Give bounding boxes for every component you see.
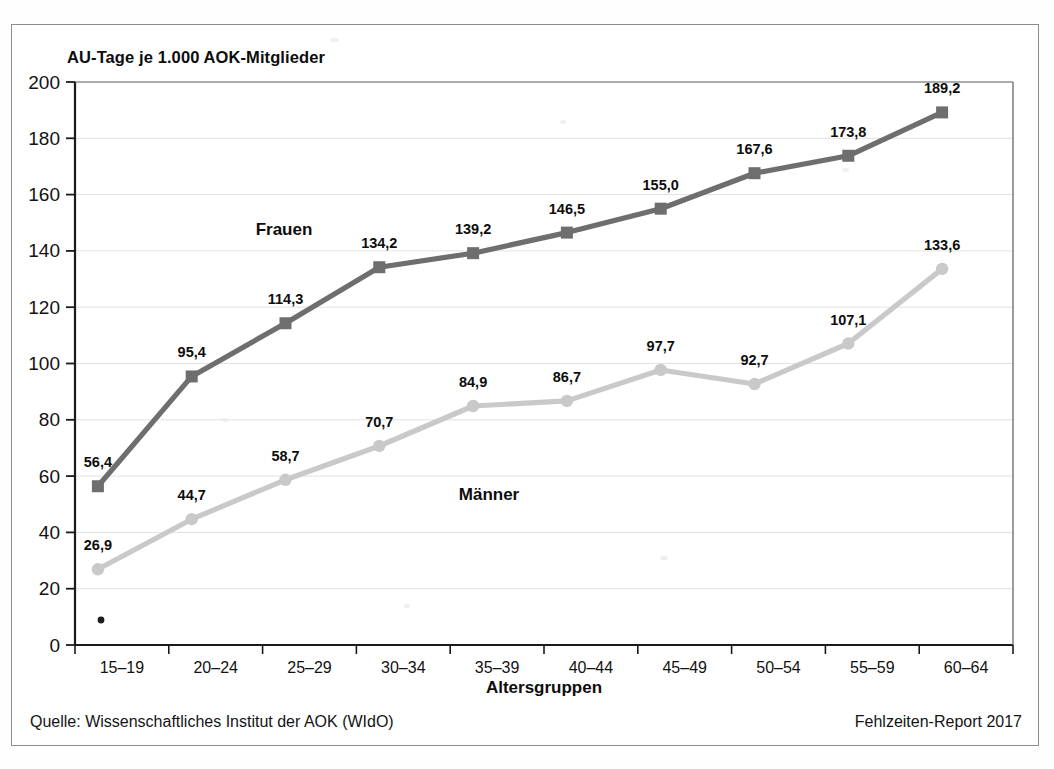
data-point-label: 26,9 xyxy=(84,537,112,553)
series-frauen-group xyxy=(92,106,948,492)
data-point-label: 97,7 xyxy=(647,338,675,354)
data-point-marker xyxy=(92,480,104,492)
scan-speck xyxy=(660,556,668,560)
y-tick-label: 20 xyxy=(39,578,60,599)
data-point-marker xyxy=(561,395,573,407)
x-axis-ticks-group: 15–1920–2425–2930–3435–3940–4445–4950–54… xyxy=(75,645,1013,676)
data-point-marker xyxy=(655,203,667,215)
x-tick-label: 35–39 xyxy=(475,659,520,676)
scan-speck xyxy=(404,604,410,608)
y-tick-label: 200 xyxy=(28,72,60,93)
y-tick-label: 120 xyxy=(28,297,60,318)
y-tick-label: 40 xyxy=(39,522,60,543)
data-point-label: 189,2 xyxy=(924,80,960,96)
data-point-marker xyxy=(186,370,198,382)
series-line-frauen xyxy=(98,112,942,486)
data-point-label: 84,9 xyxy=(459,374,487,390)
data-point-label: 70,7 xyxy=(365,414,393,430)
data-point-marker xyxy=(749,167,761,179)
scan-speck xyxy=(330,38,339,42)
x-tick-label: 60–64 xyxy=(944,659,989,676)
x-tick-label: 30–34 xyxy=(381,659,426,676)
data-point-label: 95,4 xyxy=(178,344,206,360)
data-point-label: 139,2 xyxy=(455,221,491,237)
data-point-marker xyxy=(92,563,104,575)
y-tick-label: 160 xyxy=(28,184,60,205)
series-annotation-maenner: Männer xyxy=(459,485,520,504)
line-chart-plot: 020406080100120140160180200 15–1920–2425… xyxy=(0,0,1054,769)
data-point-label: 86,7 xyxy=(553,369,581,385)
data-point-marker xyxy=(936,263,948,275)
data-point-label: 155,0 xyxy=(643,177,679,193)
y-tick-label: 100 xyxy=(28,353,60,374)
data-point-marker xyxy=(186,513,198,525)
data-point-label: 58,7 xyxy=(271,448,299,464)
data-point-marker xyxy=(280,317,292,329)
data-point-label: 134,2 xyxy=(361,235,397,251)
y-axis-ticks-group: 020406080100120140160180200 xyxy=(28,72,75,656)
data-point-label: 44,7 xyxy=(178,487,206,503)
source-note: Quelle: Wissenschaftliches Institut der … xyxy=(30,713,394,731)
data-point-marker xyxy=(655,364,667,376)
stray-dot-artifact xyxy=(98,617,105,624)
y-tick-label: 80 xyxy=(39,409,60,430)
data-point-marker xyxy=(936,106,948,118)
data-point-label: 133,6 xyxy=(924,237,960,253)
data-point-label: 107,1 xyxy=(830,312,866,328)
data-point-label: 56,4 xyxy=(84,454,112,470)
data-point-label: 114,3 xyxy=(268,291,304,307)
data-point-marker xyxy=(373,261,385,273)
x-tick-label: 50–54 xyxy=(756,659,801,676)
y-tick-label: 180 xyxy=(28,128,60,149)
x-axis-title: Altersgruppen xyxy=(486,678,602,697)
data-point-marker xyxy=(561,227,573,239)
scan-speck xyxy=(842,168,849,172)
data-point-marker xyxy=(279,474,291,486)
x-tick-label: 40–44 xyxy=(569,659,614,676)
data-point-label: 92,7 xyxy=(740,352,768,368)
data-point-marker xyxy=(748,378,760,390)
maenner-point-labels-group: 26,944,758,770,784,986,797,792,7107,1133… xyxy=(84,237,960,553)
scan-speck xyxy=(560,120,566,124)
data-point-label: 146,5 xyxy=(549,201,585,217)
x-tick-label: 20–24 xyxy=(193,659,238,676)
data-point-label: 167,6 xyxy=(736,141,772,157)
y-tick-label: 140 xyxy=(28,240,60,261)
data-point-marker xyxy=(842,150,854,162)
data-point-marker xyxy=(373,440,385,452)
series-annotation-frauen: Frauen xyxy=(256,220,313,239)
figure-canvas: AU-Tage je 1.000 AOK-Mitglieder 02040608… xyxy=(0,0,1054,769)
x-tick-label: 25–29 xyxy=(287,659,332,676)
scan-speck xyxy=(222,418,229,422)
y-tick-label: 0 xyxy=(49,635,60,656)
data-point-marker xyxy=(467,247,479,259)
x-tick-label: 55–59 xyxy=(850,659,895,676)
data-point-label: 173,8 xyxy=(830,124,866,140)
y-tick-label: 60 xyxy=(39,466,60,487)
x-tick-label: 15–19 xyxy=(100,659,145,676)
data-point-marker xyxy=(467,400,479,412)
series-maenner-group xyxy=(92,263,949,576)
x-tick-label: 45–49 xyxy=(662,659,707,676)
data-point-marker xyxy=(842,337,854,349)
frauen-point-labels-group: 56,495,4114,3134,2139,2146,5155,0167,617… xyxy=(84,80,960,470)
report-note: Fehlzeiten-Report 2017 xyxy=(855,713,1022,731)
